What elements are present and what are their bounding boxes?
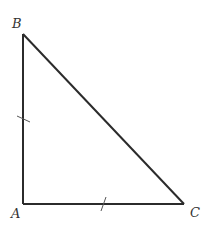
vertex-label-a: A xyxy=(10,206,20,221)
triangle-diagram: B A C xyxy=(0,0,210,229)
vertex-label-c: C xyxy=(190,205,200,220)
vertex-label-b: B xyxy=(11,16,22,31)
side-bc xyxy=(23,34,184,204)
